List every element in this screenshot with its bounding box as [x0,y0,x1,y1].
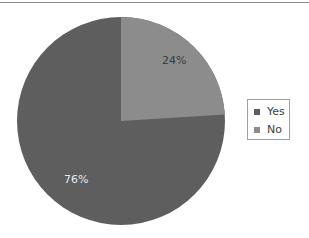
legend-label-no: No [267,123,282,136]
data-label-no: 24% [162,54,186,67]
legend-swatch-yes [254,109,260,115]
legend: Yes No [247,99,290,140]
legend-swatch-no [254,127,260,133]
legend-item-no: No [254,123,282,136]
data-label-yes: 76% [64,173,88,186]
legend-item-yes: Yes [254,105,285,118]
slice-no [121,17,225,121]
legend-label-yes: Yes [267,105,285,118]
